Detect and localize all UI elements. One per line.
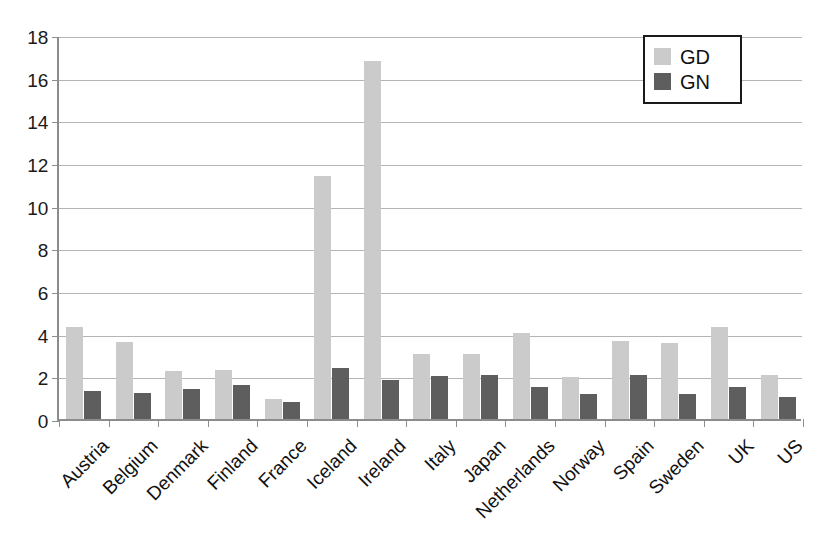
y-axis-tick-mark bbox=[52, 250, 59, 251]
y-axis-tick-mark bbox=[52, 80, 59, 81]
bar-gd-norway bbox=[562, 377, 579, 419]
bar-gn-austria bbox=[84, 391, 101, 419]
bar-gn-italy bbox=[431, 376, 448, 419]
bar-gd-sweden bbox=[661, 343, 678, 419]
x-axis-tick-mark bbox=[803, 419, 804, 427]
x-axis-tick-label: Italy bbox=[420, 435, 460, 475]
y-axis-tick-label: 4 bbox=[14, 326, 48, 345]
x-axis-category-label: Italy bbox=[420, 435, 460, 475]
y-axis-tick-label: 10 bbox=[14, 198, 48, 217]
x-axis-tick-label: Iceland bbox=[302, 435, 361, 494]
bar-gn-iceland bbox=[332, 368, 349, 419]
y-axis-tick-mark bbox=[52, 122, 59, 123]
bar-gd-france bbox=[265, 399, 282, 419]
x-axis-tick-label: Ireland bbox=[354, 435, 411, 492]
y-axis-tick-label: 18 bbox=[14, 28, 48, 47]
y-axis-tick-label: 8 bbox=[14, 241, 48, 260]
bar-gd-belgium bbox=[116, 342, 133, 419]
legend-item-gd[interactable]: GD bbox=[654, 44, 731, 69]
bar-group bbox=[109, 37, 159, 419]
bar-gn-norway bbox=[580, 394, 597, 419]
bar-group bbox=[59, 37, 109, 419]
x-axis-category-label: France bbox=[254, 435, 311, 492]
bar-gn-sweden bbox=[679, 394, 696, 419]
bar-gd-iceland bbox=[314, 176, 331, 419]
bar-gn-us bbox=[779, 397, 796, 419]
legend-label: GD bbox=[680, 47, 710, 67]
x-axis-category-label: Norway bbox=[548, 435, 609, 496]
y-axis: 024681012141618 bbox=[0, 0, 48, 556]
bar-gd-japan bbox=[463, 354, 480, 419]
y-axis-tick-label: 16 bbox=[14, 70, 48, 89]
bar-gn-netherlands bbox=[531, 387, 548, 419]
x-axis-tick-label: Sweden bbox=[644, 435, 708, 499]
bar-group bbox=[357, 37, 407, 419]
bar-group bbox=[208, 37, 258, 419]
x-axis-category-label: US bbox=[774, 435, 808, 469]
x-axis-tick-label: Finland bbox=[203, 435, 263, 495]
x-axis-tick-label: Norway bbox=[548, 435, 609, 496]
bar-gn-belgium bbox=[134, 393, 151, 419]
bar-group bbox=[406, 37, 456, 419]
bar-gn-denmark bbox=[183, 389, 200, 419]
bar-gd-us bbox=[761, 375, 778, 419]
y-axis-tick-label: 14 bbox=[14, 113, 48, 132]
bar-group bbox=[753, 37, 803, 419]
bar-group bbox=[555, 37, 605, 419]
x-axis-tick-label: UK bbox=[724, 435, 758, 469]
bar-group bbox=[257, 37, 307, 419]
y-axis-tick-label: 6 bbox=[14, 284, 48, 303]
y-axis-tick-mark bbox=[52, 293, 59, 294]
legend-label: GN bbox=[680, 72, 710, 92]
bar-gn-finland bbox=[233, 385, 250, 419]
chart-legend: GDGN bbox=[643, 35, 742, 104]
bar-gd-italy bbox=[413, 354, 430, 419]
bar-group bbox=[158, 37, 208, 419]
bar-gn-spain bbox=[630, 375, 647, 419]
y-axis-tick-mark bbox=[52, 378, 59, 379]
bar-gn-ireland bbox=[382, 380, 399, 419]
legend-swatch-gn bbox=[654, 73, 671, 90]
y-axis-tick-label: 12 bbox=[14, 156, 48, 175]
bar-gn-uk bbox=[729, 387, 746, 419]
x-axis-tick-label: US bbox=[774, 435, 808, 469]
legend-item-gn[interactable]: GN bbox=[654, 69, 731, 94]
bar-gd-ireland bbox=[364, 61, 381, 419]
x-axis-category-label: Finland bbox=[203, 435, 263, 495]
bar-gd-austria bbox=[66, 327, 83, 419]
bar-gd-netherlands bbox=[513, 333, 530, 419]
x-axis-category-label: Ireland bbox=[354, 435, 411, 492]
x-axis-category-label: UK bbox=[724, 435, 758, 469]
x-axis-category-label: Sweden bbox=[644, 435, 708, 499]
y-axis-tick-mark bbox=[52, 37, 59, 38]
bar-gd-spain bbox=[612, 341, 629, 419]
bar-gn-france bbox=[283, 402, 300, 419]
y-axis-tick-mark bbox=[52, 336, 59, 337]
bar-chart: 024681012141618 AustriaBelgiumDenmarkFin… bbox=[0, 0, 819, 556]
bar-gd-uk bbox=[711, 327, 728, 419]
x-axis: AustriaBelgiumDenmarkFinlandFranceIcelan… bbox=[57, 421, 801, 556]
x-axis-tick-label: France bbox=[254, 435, 311, 492]
y-axis-tick-mark bbox=[52, 208, 59, 209]
bar-group bbox=[505, 37, 555, 419]
y-axis-tick-label: 2 bbox=[14, 369, 48, 388]
bar-gn-japan bbox=[481, 375, 498, 419]
x-axis-category-label: Iceland bbox=[302, 435, 361, 494]
bar-group bbox=[307, 37, 357, 419]
bar-group bbox=[456, 37, 506, 419]
y-axis-tick-label: 0 bbox=[14, 412, 48, 431]
bar-gd-denmark bbox=[165, 371, 182, 419]
y-axis-tick-mark bbox=[52, 165, 59, 166]
legend-swatch-gd bbox=[654, 48, 671, 65]
bar-gd-finland bbox=[215, 370, 232, 419]
